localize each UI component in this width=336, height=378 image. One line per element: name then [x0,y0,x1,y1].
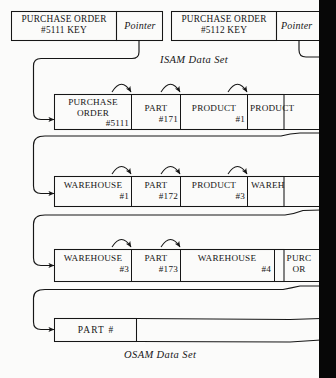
isam-record-2-key: PURCHASE ORDER #5112 KEY [173,14,275,36]
row-4-field-1-name: PART # [57,325,135,335]
row-3-field-2-name: PART [134,253,178,264]
row-2-field-1-name: WAREHOUSE [57,180,129,191]
row-3-field-1-number: #3 [57,264,129,275]
row-2-field-4: WAREH [251,180,323,191]
row-3-field-4-name2: OR [277,264,321,275]
row-3-field-4: PURC OR [277,253,321,275]
row-2-field-2-name: PART [134,180,178,191]
row-1-field-3-name: PRODUCT [183,103,245,114]
isam-record-1-key: PURCHASE ORDER #5111 KEY [13,14,115,36]
row-2-field-3-name: PRODUCT [183,180,245,191]
row-3-field-3-number: #4 [183,264,271,275]
row-1-field-2-name: PART [134,103,178,114]
row-3-field-1-name: WAREHOUSE [57,253,129,264]
row-1-field-4: PRODUCT [250,103,322,114]
row-2-field-4-name: WAREH [251,180,323,191]
row-3-field-1: WAREHOUSE #3 [57,253,129,275]
isam-data-set-caption: ISAM Data Set [160,54,228,65]
row-3-field-2: PART #173 [134,253,178,275]
row-3-field-3-name: WAREHOUSE [183,253,271,264]
row-1-field-1-name2: ORDER [57,108,129,119]
row-2-field-2: PART #172 [134,180,178,202]
row-2-field-2-number: #172 [134,191,178,202]
row-3-field-4-name1: PURC [277,253,321,264]
figure-canvas: PURCHASE ORDER #5111 KEY Pointer PURCHAS… [0,0,336,378]
row-1-field-3-number: #1 [183,114,245,125]
isam-record-2-key-line2: #5112 KEY [201,25,247,35]
isam-record-1-key-line1: PURCHASE ORDER [21,14,106,24]
row-2-field-1-number: #1 [57,191,129,202]
isam-record-2-key-line1: PURCHASE ORDER [181,14,266,24]
row-2-field-1: WAREHOUSE #1 [57,180,129,202]
osam-data-set-caption: OSAM Data Set [124,349,196,360]
isam-record-1-key-line2: #5111 KEY [41,25,87,35]
row-1-field-1-number: #5111 [57,118,129,129]
row-1-field-2-number: #171 [134,114,178,125]
isam-record-2-pointer-label: Pointer [281,20,319,31]
row-1-field-2: PART #171 [134,103,178,125]
row-3-field-3: WAREHOUSE #4 [183,253,271,275]
row-3-field-2-number: #173 [134,264,178,275]
row-2-field-3-number: #3 [183,191,245,202]
row-1-field-1-name1: PURCHASE [57,97,129,108]
row-1-field-4-name: PRODUCT [250,103,322,114]
scan-gutter-band [319,0,336,378]
isam-record-1-pointer-label: Pointer [121,20,159,31]
row-1-field-3: PRODUCT #1 [183,103,245,125]
row-1-field-1: PURCHASE ORDER #5111 [57,97,129,129]
row-2-field-3: PRODUCT #3 [183,180,245,202]
